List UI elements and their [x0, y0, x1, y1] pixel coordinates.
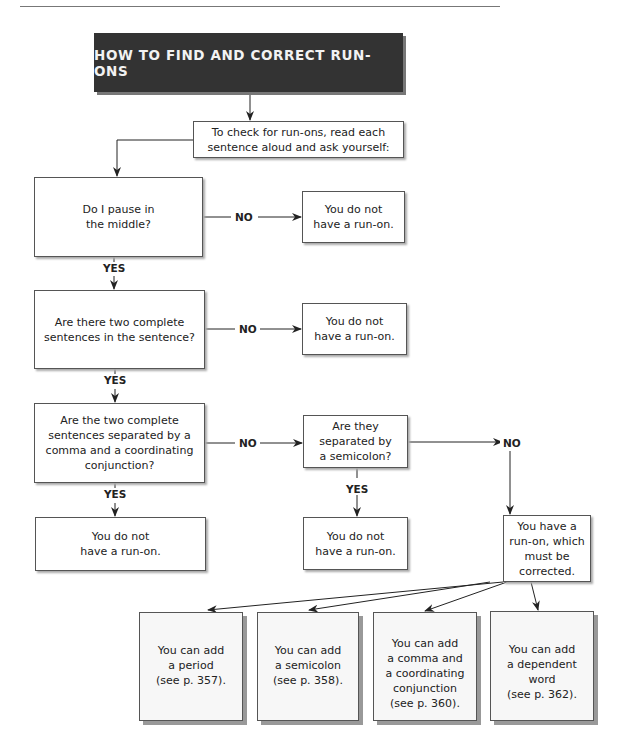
result-no-runon-2: You do not have a run-on. [302, 303, 407, 355]
yes-label-4: YES [343, 483, 371, 495]
question-comma-conjunction-box: Are the two complete sentences separated… [34, 403, 205, 483]
question-semicolon-box: Are they separated by a semicolon? [303, 415, 408, 468]
result-no-runon-4: You do not have a run-on. [303, 517, 408, 570]
yes-label-1: YES [100, 262, 128, 274]
fix-semicolon-box: You can add a semicolon (see p. 358). [257, 612, 359, 721]
no-label-1: NO [232, 211, 256, 223]
yes-label-3: YES [101, 488, 129, 500]
no-label-2: NO [236, 323, 260, 335]
result-no-runon-1: You do not have a run-on. [302, 191, 405, 243]
no-label-4: NO [500, 437, 524, 449]
no-label-3: NO [236, 437, 260, 449]
question-two-sentences-box: Are there two complete sentences in the … [34, 290, 205, 369]
question-pause-box: Do I pause in the middle? [34, 177, 203, 257]
start-box: To check for run-ons, read each sentence… [193, 121, 404, 158]
result-runon-box: You have a run-on, which must be correct… [503, 515, 591, 582]
flowchart-title: HOW TO FIND AND CORRECT RUN-ONS [94, 33, 403, 92]
result-no-runon-3: You do not have a run-on. [35, 517, 206, 571]
fix-comma-conjunction-box: You can add a comma and a coordinating c… [373, 612, 477, 721]
fix-dependent-word-box: You can add a dependent word (see p. 362… [490, 611, 594, 721]
fix-period-box: You can add a period (see p. 357). [139, 612, 243, 721]
yes-label-2: YES [101, 374, 129, 386]
